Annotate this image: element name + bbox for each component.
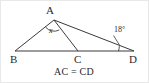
angle-label-18-degrees: 18° — [114, 26, 125, 34]
segment-AB — [15, 20, 54, 51]
figure-caption: AC = CD — [54, 67, 94, 77]
vertex-label-b: B — [10, 54, 17, 65]
angle-label-x: x — [49, 27, 53, 35]
vertex-label-a: A — [46, 5, 54, 16]
vertex-label-d: D — [129, 54, 137, 65]
angle-arc-D — [119, 46, 120, 51]
vertex-label-c: C — [74, 54, 81, 65]
geometry-figure: A B C D x 18° AC = CD — [0, 0, 149, 83]
